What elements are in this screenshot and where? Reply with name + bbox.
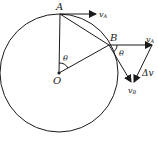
label-point-a: A (55, 1, 63, 12)
angle-arc-center (59, 63, 68, 68)
diagram-svg: A B O θ θ vA vA vB Δv (0, 0, 158, 146)
label-velocity-b: vB (128, 86, 137, 95)
label-angle-center: θ (63, 54, 68, 63)
label-angle-b: θ (119, 49, 124, 58)
label-velocity-a: vA (99, 10, 108, 19)
label-point-b: B (109, 32, 117, 43)
label-center-o: O (53, 75, 61, 86)
circular-motion-diagram: A B O θ θ vA vA vB Δv (0, 0, 158, 146)
label-delta-v: Δv (141, 68, 154, 78)
label-velocity-a-copy: vA (146, 35, 155, 44)
radius-oa (59, 14, 60, 73)
